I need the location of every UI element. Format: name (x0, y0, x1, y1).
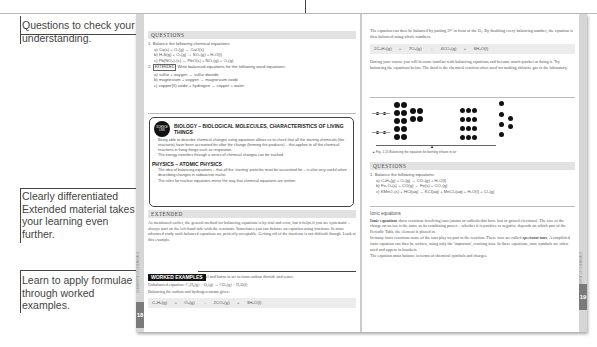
figure-baseline (376, 145, 496, 146)
equation-arrow: → (429, 46, 433, 51)
oxygen-atom-icon (401, 134, 407, 140)
water-atom-icon (499, 101, 504, 106)
equation-op: + (237, 300, 240, 305)
worked-example-equation: C₂H₆(g) + O₂(g) → 2CO₂(g) + 3H₂O(l) (148, 298, 356, 308)
divider (370, 206, 575, 207)
oxygen-atom-icon (401, 118, 407, 124)
questions-heading: QUESTIONS (370, 162, 575, 170)
ionic-text: The equation must balance in terms of ch… (370, 253, 575, 259)
ionic-heading: Ionic equations (370, 211, 575, 217)
co2-atom-icon (460, 108, 465, 113)
co2-atom-icon (472, 108, 477, 113)
physics-bullet: The rules for nuclear equations mirror t… (152, 179, 348, 184)
question-2-number: 2. (148, 64, 152, 69)
co2-atom-icon (466, 126, 471, 131)
callout-questions-bracket (20, 16, 23, 44)
extended-text: As mentioned earlier, the general method… (148, 220, 356, 242)
balanced-equation: 2C₂H₆(g) + 7O₂(g) → 4CO₂(g) + 6H₂O(l) (370, 44, 575, 54)
oxygen-atom-icon (401, 126, 407, 132)
equation-arrow: → (202, 300, 206, 305)
co2-atom-icon (460, 135, 465, 140)
science-link-badge-text: SCIENCE LINK (154, 126, 170, 132)
equation-term: C₂H₆(g) (152, 300, 167, 305)
oxygen-atom-icon (394, 126, 400, 132)
divider (148, 113, 356, 114)
biology-bullet: Being able to describe chemical changes … (152, 138, 348, 152)
worked-example-text: Balancing the carbon and hydrogen atoms … (148, 289, 356, 295)
oxygen-atom-icon (410, 116, 416, 122)
equation-op: + (399, 46, 402, 51)
right-content: The equation can then be balanced by put… (370, 28, 575, 70)
page-number-right: 19 (579, 284, 587, 310)
left-side-label: CHEMISTRY OF CHEMICALS (136, 250, 144, 296)
equation-term: 2C₂H₆(g) (374, 46, 392, 51)
extended-heading: EXTENDED (148, 210, 356, 218)
equation-term: 7O₂(g) (409, 46, 422, 51)
water-atom-icon (499, 132, 504, 137)
book-spread: CHEMISTRY OF CHEMICALS 18 QUESTIONS 1. B… (136, 14, 587, 332)
water-atom-icon (499, 112, 504, 117)
oxygen-atom-icon (417, 116, 423, 122)
question-2c: c) copper(II) oxide + hydrogen → copper … (148, 83, 356, 89)
physics-heading: PHYSICS – ATOMIC PHYSICS (152, 161, 348, 167)
bond-line (372, 113, 390, 114)
triangle-marker-icon: ▲ (430, 144, 434, 149)
oxygen-atom-icon (394, 102, 400, 108)
question-2: Write balanced equations for the followi… (177, 64, 285, 69)
science-link-box: SCIENCE LINK BIOLOGY – BIOLOGICAL MOLECU… (149, 117, 354, 207)
equation-term: 4CO₂(g) (440, 46, 456, 51)
co2-atom-icon (460, 126, 465, 131)
co2-atom-icon (460, 117, 465, 122)
ionic-term: Ionic equations (370, 218, 397, 223)
science-link-badge: SCIENCE LINK (154, 121, 170, 137)
equation-op: + (174, 300, 177, 305)
questions-section: QUESTIONS 1. Balance the following chemi… (148, 31, 356, 88)
oxygen-atom-icon (410, 108, 416, 114)
worked-examples-section: WORKED EXAMPLES Ethane (C₂H₆) is a hydro… (148, 265, 356, 308)
right-page: CHEMISTRY OF CHEMICALS 19 The equation c… (362, 14, 587, 332)
oxygen-atom-icon (417, 108, 423, 114)
ionic-text: show reactions involving ions (atoms or … (370, 218, 566, 234)
equation-term: 2CO₂(g) (214, 300, 230, 305)
co2-atom-icon (472, 135, 477, 140)
co2-atom-icon (466, 108, 471, 113)
water-atom-icon (508, 116, 513, 121)
equation-op: + (464, 46, 467, 51)
questions-heading: QUESTIONS (148, 31, 356, 39)
callout-questions-text: Questions to check your understanding. (22, 19, 135, 44)
co2-atom-icon (466, 135, 471, 140)
page-number-left: 18 (136, 302, 144, 328)
right-questions-section: QUESTIONS 1. Balance the following equat… (370, 162, 575, 194)
divider (198, 271, 356, 272)
callout-questions-leader (20, 34, 152, 35)
divider (370, 97, 575, 98)
body-paragraph: During your course you will become famil… (370, 59, 575, 70)
oxygen-atom-icon (394, 134, 400, 140)
oxygen-atom-icon (394, 118, 400, 124)
left-page: CHEMISTRY OF CHEMICALS 18 QUESTIONS 1. B… (136, 14, 360, 332)
figure-caption: ▲ Fig. 1.15 Balancing the equation for b… (372, 150, 456, 156)
equation-term: 6H₂O(l) (474, 46, 489, 51)
bond-line (372, 132, 390, 133)
equation-term: O₂(g) (184, 300, 195, 305)
biology-bullet: The energy transfers through a series of… (152, 153, 348, 158)
co2-atom-icon (466, 117, 471, 122)
ionic-equations-section: Ionic equations Ionic equations show rea… (370, 211, 575, 259)
worked-example-text: Unbalanced equation: C₂H₆(g) + O₂(g) → C… (148, 282, 356, 288)
oxygen-atom-icon (394, 110, 400, 116)
worked-examples-heading: WORKED EXAMPLES (148, 274, 206, 281)
physics-bullet: The idea of balancing equations – that a… (152, 168, 348, 178)
callout-extended-bracket (20, 188, 139, 243)
oxygen-atom-icon (401, 102, 407, 108)
molecule-figure: ▲ ▲ Fig. 1.15 Balancing the equation for… (370, 100, 575, 158)
equation-term: 3H₂O(l) (247, 300, 262, 305)
co2-atom-icon (472, 117, 477, 122)
question-1c: c) KMnO₄(s) + HCl(aq) → KCl(aq) + MnCl₂(… (370, 189, 575, 195)
oxygen-atom-icon (401, 110, 407, 116)
callout-worked-bracket (20, 270, 153, 313)
extended-section: EXTENDED As mentioned earlier, the gener… (148, 210, 356, 242)
callout-questions: Questions to check your understanding. (22, 19, 142, 44)
ionic-text: In many ionic reactions some of the ions… (370, 235, 522, 240)
biology-heading: BIOLOGY – BIOLOGICAL MOLECULES, CHARACTE… (174, 123, 344, 135)
water-atom-icon (508, 124, 513, 129)
